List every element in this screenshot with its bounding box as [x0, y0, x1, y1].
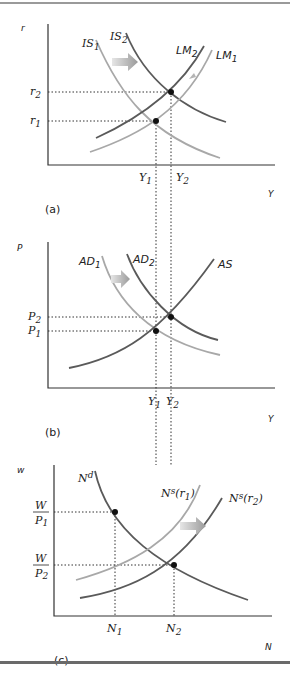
label-IS1: IS1 — [81, 37, 100, 52]
curve-AS — [69, 259, 214, 368]
panel-c-y-axis-label: w — [17, 465, 25, 475]
label-AS: AS — [217, 258, 233, 271]
shift-arrow-Ns — [180, 517, 206, 535]
tick-W-over-P1: W P1 — [33, 499, 49, 528]
panel-b: P Y (b) AD1 AD2 AS P2 P1 Y1 Y2 — [17, 242, 275, 439]
tick-r1: r1 — [30, 114, 41, 129]
tick-W-numerator-2: W — [35, 552, 48, 565]
tick-r2: r2 — [30, 85, 41, 100]
tick-Y2-a: Y2 — [176, 171, 189, 186]
panel-c: w N (c) Nd Ns(r1) Ns(r2) W P1 W P2 N1 N2 — [17, 465, 272, 667]
panel-a-y-axis-label: r — [21, 23, 26, 33]
equilibrium-point-2 — [168, 89, 174, 95]
tick-N2: N2 — [165, 622, 182, 637]
tick-N1: N1 — [106, 622, 122, 637]
panel-a-tag: (a) — [45, 203, 60, 216]
label-AD1: AD1 — [78, 255, 101, 270]
tick-P-denominator-2: P2 — [34, 567, 48, 581]
label-Nd: Nd — [77, 470, 94, 485]
equilibrium-point-1 — [153, 118, 159, 124]
tick-Y1-a: Y1 — [139, 171, 152, 186]
tick-W-numerator-1: W — [35, 499, 48, 512]
tick-P1: P1 — [27, 324, 41, 339]
tick-P-denominator-1: P1 — [34, 514, 48, 528]
bottom-rule — [0, 661, 290, 664]
equilibrium-point-2 — [171, 562, 177, 568]
label-Ns-r1: Ns(r1) — [160, 486, 195, 502]
shift-arrow-LM — [189, 73, 196, 79]
panel-c-x-axis-label: N — [265, 642, 272, 652]
tick-W-over-P2: W P2 — [33, 552, 49, 581]
equilibrium-point-2 — [168, 314, 174, 320]
equilibrium-point-1 — [112, 509, 118, 515]
label-IS2: IS2 — [109, 30, 128, 45]
label-LM2: LM2 — [176, 44, 198, 59]
panel-b-tag: (b) — [45, 426, 61, 439]
tick-Y1-b: Y1 — [148, 395, 161, 410]
curve-AD2 — [127, 254, 218, 340]
label-LM1: LM1 — [216, 49, 237, 64]
tick-P2: P2 — [27, 310, 41, 325]
label-AD2: AD2 — [132, 253, 155, 268]
macro-diagram: r Y (a) IS1 IS2 LM2 LM1 r2 r1 Y1 Y2 P Y … — [0, 0, 290, 681]
shift-arrow-IS — [112, 53, 138, 71]
panel-b-x-axis-label: Y — [268, 414, 275, 424]
label-Ns-r2: Ns(r2) — [228, 491, 263, 507]
curve-IS1 — [96, 40, 220, 158]
equilibrium-point-1 — [153, 328, 159, 334]
tick-Y2-b: Y2 — [166, 395, 179, 410]
panel-b-y-axis-label: P — [17, 243, 23, 253]
panel-a-x-axis-label: Y — [268, 189, 275, 199]
